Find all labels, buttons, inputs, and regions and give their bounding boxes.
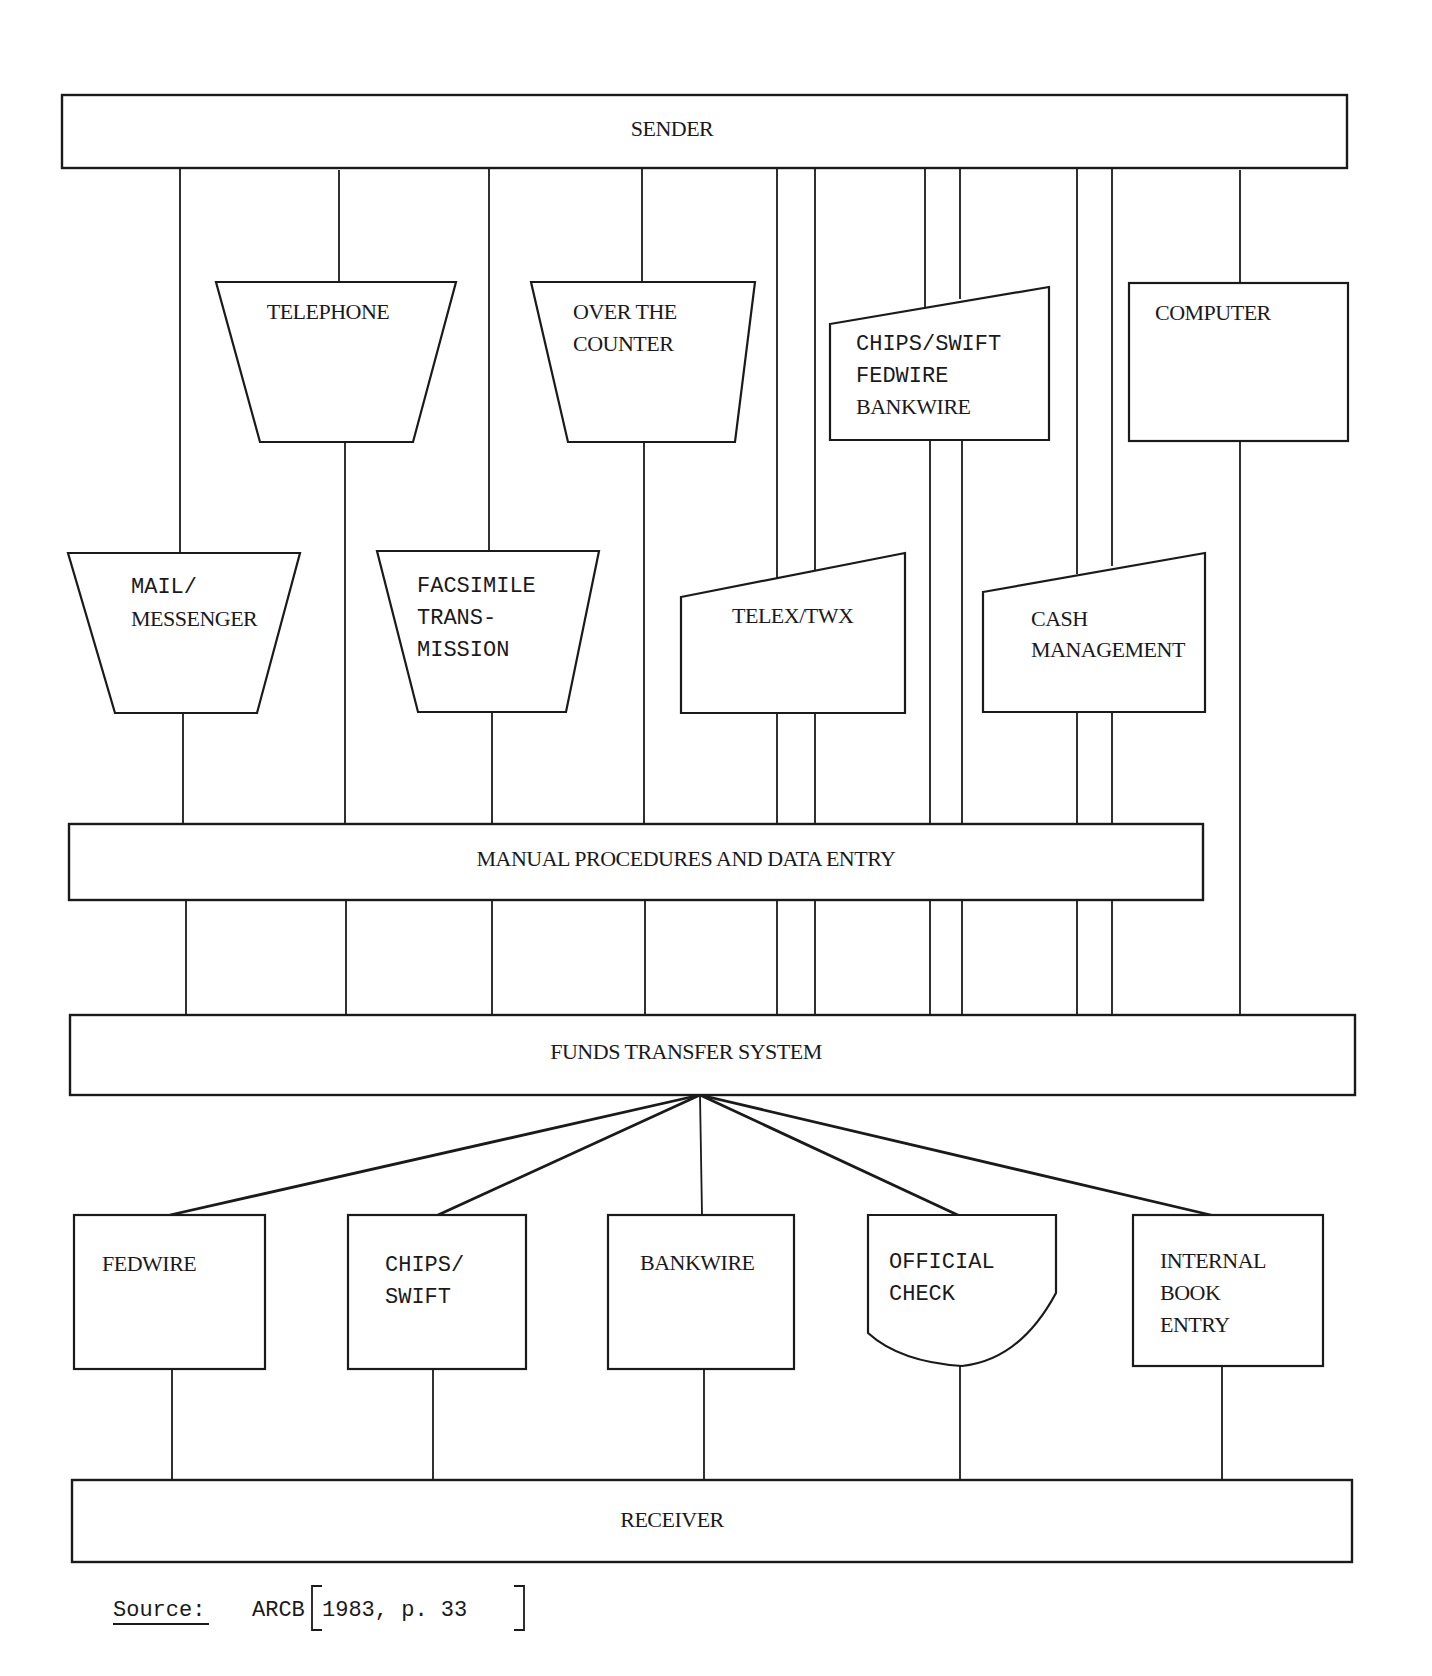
output-fedwire: FEDWIRE [74,1215,265,1369]
bankwire-label: BANKWIRE [640,1250,755,1275]
channel-facsimile: FACSIMILE TRANS- MISSION [377,551,599,712]
fedwire-label: FEDWIRE [102,1251,196,1276]
mail-label-1: MAIL/ [131,575,197,600]
internal-label-3: ENTRY [1160,1312,1230,1337]
funds-transfer-diagram: SENDER TELEPHONE OVER THE COUNTER CHIPS/… [0,0,1432,1676]
output-chips-swift: CHIPS/ SWIFT [348,1215,526,1369]
computer-label: COMPUTER [1155,300,1272,325]
receiver-label: RECEIVER [620,1507,724,1532]
wire-label-3: BANKWIRE [856,394,971,419]
output-internal-book-entry: INTERNAL BOOK ENTRY [1133,1215,1323,1366]
manual-procedures-bar: MANUAL PROCEDURES AND DATA ENTRY [69,824,1203,900]
wire-label-2: FEDWIRE [856,364,948,389]
channel-mail-messenger: MAIL/ MESSENGER [68,553,300,713]
telephone-label: TELEPHONE [267,299,390,324]
cash-label-1: CASH [1031,606,1088,631]
cash-label-2: MANAGEMENT [1031,637,1186,662]
fts-label: FUNDS TRANSFER SYSTEM [550,1039,822,1064]
wire-label-1: CHIPS/SWIFT [856,332,1001,357]
over-counter-label-1: OVER THE [573,299,677,324]
sender-bar: SENDER [62,95,1347,168]
chips-label-2: SWIFT [385,1285,451,1310]
channel-telex-twx: TELEX/TWX [681,553,905,713]
mail-label-2: MESSENGER [131,606,258,631]
channel-chips-swift-fedwire-bankwire: CHIPS/SWIFT FEDWIRE BANKWIRE [830,287,1049,440]
source-label: Source: [113,1598,205,1623]
chips-label-1: CHIPS/ [385,1253,464,1278]
receiver-bar: RECEIVER [72,1480,1352,1562]
internal-label-2: BOOK [1160,1280,1221,1305]
fanout-lines [170,1095,1215,1217]
output-bankwire: BANKWIRE [608,1215,794,1369]
channel-computer: COMPUTER [1129,283,1348,441]
fax-label-1: FACSIMILE [417,574,536,599]
check-label-2: CHECK [889,1282,956,1307]
manual-label: MANUAL PROCEDURES AND DATA ENTRY [476,846,896,871]
channel-over-the-counter: OVER THE COUNTER [531,282,755,442]
source-citation: Source: ARCB 1983, p. 33 [113,1586,524,1630]
sender-label: SENDER [631,116,714,141]
fax-label-2: TRANS- [417,606,496,631]
fax-label-3: MISSION [417,638,509,663]
telex-label: TELEX/TWX [732,603,854,628]
over-counter-label-2: COUNTER [573,331,674,356]
internal-label-1: INTERNAL [1160,1248,1266,1273]
source-citation-text: 1983, p. 33 [322,1598,467,1623]
check-label-1: OFFICIAL [889,1250,995,1275]
funds-transfer-system-bar: FUNDS TRANSFER SYSTEM [70,1015,1355,1095]
output-official-check: OFFICIAL CHECK [868,1215,1056,1366]
channel-cash-management: CASH MANAGEMENT [983,553,1205,712]
source-author: ARCB [252,1598,305,1623]
channel-telephone: TELEPHONE [216,282,456,442]
